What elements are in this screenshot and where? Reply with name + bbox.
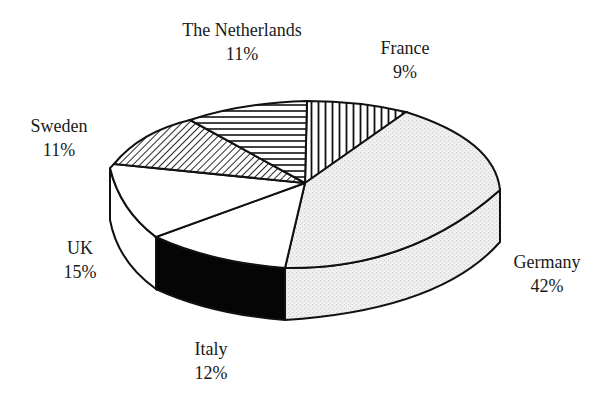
label-sweden-pct: 11% (14, 138, 104, 162)
label-uk-pct: 15% (50, 260, 110, 284)
label-france: France 9% (360, 36, 450, 84)
label-france-pct: 9% (360, 60, 450, 84)
label-sweden-name: Sweden (14, 114, 104, 138)
label-italy-pct: 12% (171, 361, 251, 385)
label-sweden: Sweden 11% (14, 114, 104, 162)
label-uk-name: UK (50, 236, 110, 260)
label-italy: Italy 12% (171, 337, 251, 385)
label-germany-pct: 42% (497, 274, 597, 298)
label-france-name: France (360, 36, 450, 60)
label-germany: Germany 42% (497, 250, 597, 298)
label-netherlands-pct: 11% (162, 42, 322, 66)
label-netherlands-name: The Netherlands (162, 18, 322, 42)
label-italy-name: Italy (171, 337, 251, 361)
label-netherlands: The Netherlands 11% (162, 18, 322, 66)
label-germany-name: Germany (497, 250, 597, 274)
label-uk: UK 15% (50, 236, 110, 284)
